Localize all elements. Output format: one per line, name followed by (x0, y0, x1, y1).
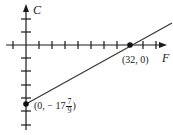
y-axis-label: C (33, 4, 41, 16)
coordinate-plot (0, 0, 173, 135)
y-axis-arrow-icon (23, 4, 29, 12)
y-intercept-label-prefix: (0, − 17 (34, 100, 65, 111)
point-y-intercept (23, 101, 29, 107)
y-axis (21, 8, 31, 130)
x-intercept-label: (32, 0) (122, 55, 149, 65)
y-intercept-label-suffix: ) (72, 100, 75, 111)
point-x-intercept (127, 42, 133, 48)
y-intercept-label: (0, − 1779) (34, 98, 76, 115)
conversion-line (26, 23, 172, 104)
x-axis-arrow-icon (159, 42, 167, 48)
x-axis-label: F (162, 52, 169, 64)
